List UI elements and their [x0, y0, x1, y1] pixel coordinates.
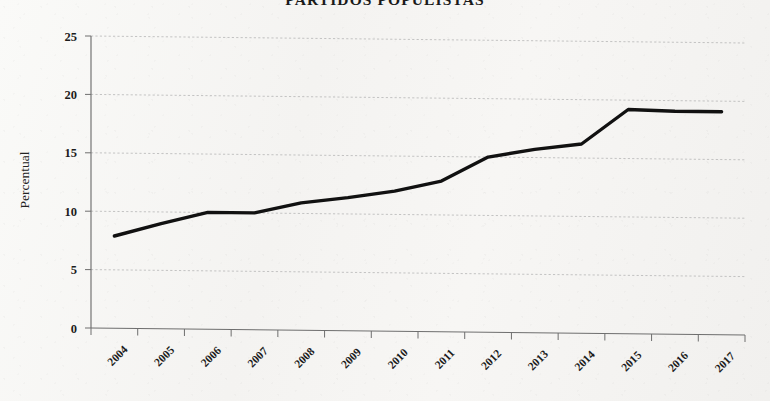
x-tick-label: 2014: [572, 348, 597, 373]
y-tick-label: 20: [65, 88, 78, 102]
y-tick-label: 25: [65, 30, 78, 44]
x-tick-label: 2013: [525, 348, 550, 373]
y-tick-label: 15: [65, 146, 78, 160]
data-series-line: [114, 110, 721, 237]
x-tick-label: 2015: [619, 349, 644, 374]
y-tick-label: 0: [71, 322, 77, 336]
x-tick-label: 2016: [666, 349, 691, 374]
x-axis-tick-labels: 2004200520062007200820092010201120122013…: [91, 328, 745, 374]
x-tick-label: 2012: [479, 347, 504, 372]
y-tick-label: 10: [65, 205, 78, 219]
y-axis-tick-labels: 0510152025: [65, 30, 78, 336]
x-tick-label: 2007: [245, 345, 270, 370]
chart-container: PARTIDOS POPULISTAS Percentual 051015202…: [0, 0, 770, 401]
line-chart-plot: 0510152025 20042005200620072008200920102…: [0, 0, 770, 401]
x-tick-label: 2011: [432, 347, 456, 371]
x-tick-label: 2009: [339, 346, 364, 371]
x-tick-label: 2006: [198, 344, 223, 369]
x-tick-label: 2017: [712, 350, 737, 375]
y-tick-label: 5: [71, 263, 77, 277]
x-tick-label: 2005: [152, 344, 177, 369]
x-tick-label: 2008: [292, 345, 317, 370]
gridlines-group: [85, 36, 745, 328]
x-tick-label: 2010: [385, 346, 410, 371]
x-tick-label: 2004: [105, 343, 130, 368]
